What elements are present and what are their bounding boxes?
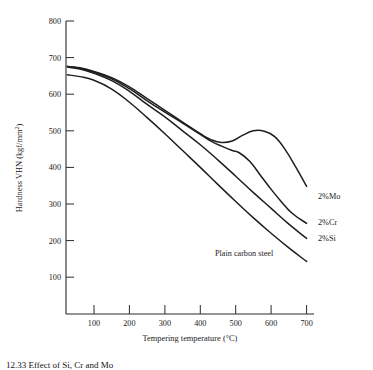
series-label-plain-carbon-steel: Plain carbon steel — [215, 249, 274, 258]
series-label-2-percent-si: 2%Si — [318, 234, 336, 243]
y-tick-label-600: 600 — [49, 90, 61, 99]
y-tick-label-500: 500 — [49, 127, 61, 136]
y-axis-tick-labels: 800 700 600 500 400 300 200 100 — [49, 17, 61, 282]
y-tick-label-100: 100 — [49, 273, 61, 282]
x-tick-label-400: 400 — [194, 319, 206, 328]
series-curves — [67, 66, 306, 261]
axes — [66, 21, 314, 314]
y-axis-ticks — [66, 21, 74, 277]
x-axis-title: Tempering temperature (°C) — [143, 334, 238, 343]
x-tick-label-500: 500 — [230, 319, 242, 328]
y-axis-title-group: Hardness VHN (kgf/mm2) — [14, 124, 24, 213]
y-tick-label-800: 800 — [49, 17, 61, 26]
y-axis-title-tail: ) — [15, 124, 24, 127]
series-labels: 2%Mo 2%Cr 2%Si Plain carbon steel — [215, 192, 340, 258]
x-tick-label-700: 700 — [300, 319, 312, 328]
y-tick-label-300: 300 — [49, 200, 61, 209]
y-tick-label-700: 700 — [49, 54, 61, 63]
x-axis-tick-labels: 100 200 300 400 500 600 700 — [88, 319, 313, 328]
y-axis-title: Hardness VHN (kgf/mm2) — [14, 124, 24, 213]
figure-caption: 12.33 Effect of Si, Cr and Mo — [6, 360, 113, 370]
x-tick-label-200: 200 — [123, 319, 135, 328]
y-tick-label-200: 200 — [49, 237, 61, 246]
curve-plain-carbon-steel — [67, 75, 306, 262]
curve-2-percent-cr — [67, 66, 306, 223]
y-tick-label-400: 400 — [49, 163, 61, 172]
x-tick-label-600: 600 — [265, 319, 277, 328]
y-axis-title-main: Hardness VHN (kgf/mm — [15, 129, 24, 212]
x-axis-ticks — [94, 305, 307, 314]
series-label-2-percent-cr: 2%Cr — [318, 218, 337, 227]
x-tick-label-100: 100 — [88, 319, 100, 328]
x-tick-label-300: 300 — [159, 319, 171, 328]
series-label-2-percent-mo: 2%Mo — [318, 192, 340, 201]
curve-2-percent-si — [67, 67, 306, 238]
